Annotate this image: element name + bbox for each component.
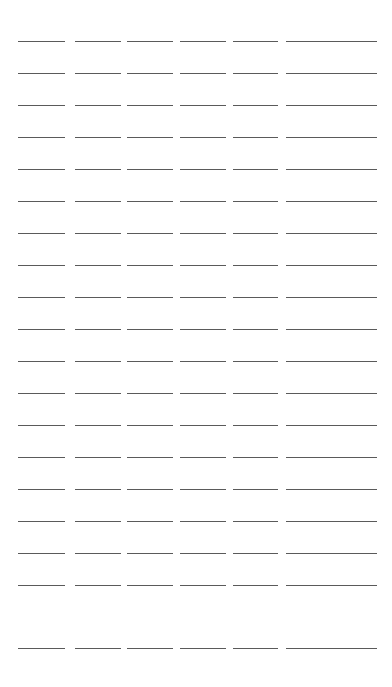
redacted-line [18,361,65,362]
redacted-line [180,521,226,522]
redacted-line-row [0,265,392,269]
redacted-line [330,73,377,74]
redacted-line-row [0,489,392,493]
redacted-line [75,489,121,490]
redacted-line [330,105,377,106]
redacted-line [18,41,65,42]
redacted-line [127,41,173,42]
redacted-line-row [0,73,392,77]
redacted-line [18,137,65,138]
redacted-line [75,393,121,394]
redacted-line-row [0,553,392,557]
redacted-line [286,105,331,106]
redacted-line [75,585,121,586]
redacted-line [330,41,377,42]
redacted-line [286,73,331,74]
redacted-line [18,393,65,394]
redacted-line [75,105,121,106]
redacted-line [127,73,173,74]
redacted-line [233,585,278,586]
redacted-line [180,553,226,554]
redacted-line [127,553,173,554]
document-page [0,0,392,687]
redacted-line-row [0,169,392,173]
redacted-line-row [0,41,392,45]
redacted-line [75,41,121,42]
redacted-line [233,393,278,394]
redacted-line [127,137,173,138]
redacted-line [18,521,65,522]
redacted-line [233,201,278,202]
redacted-line [18,233,65,234]
redacted-line [330,297,377,298]
redacted-line-row [0,297,392,301]
redacted-line [233,265,278,266]
redacted-line [75,201,121,202]
redacted-line [18,265,65,266]
redacted-line [330,585,377,586]
redacted-line [233,169,278,170]
redacted-line [18,585,65,586]
redacted-line [286,585,331,586]
redacted-line [286,169,331,170]
redacted-line [127,457,173,458]
redacted-line [330,521,377,522]
redacted-line [233,105,278,106]
redacted-line [127,361,173,362]
redacted-line [180,329,226,330]
redacted-line [286,489,331,490]
redacted-line [75,169,121,170]
redacted-line [127,489,173,490]
redacted-line [233,137,278,138]
redacted-line [18,73,65,74]
redacted-line [180,648,226,649]
redacted-line [18,553,65,554]
redacted-line [127,105,173,106]
redacted-line [180,233,226,234]
redacted-line [286,553,331,554]
redacted-line [180,137,226,138]
redacted-line [286,233,331,234]
redacted-line [75,457,121,458]
redacted-line-row [0,425,392,429]
redacted-line [18,329,65,330]
redacted-line [180,201,226,202]
redacted-line [233,648,278,649]
redacted-line [286,137,331,138]
redacted-line [127,393,173,394]
redacted-line [286,41,331,42]
redacted-line-row [0,585,392,589]
redacted-line [330,457,377,458]
redacted-line [75,233,121,234]
redacted-line [233,425,278,426]
redacted-line [233,73,278,74]
redacted-line [233,457,278,458]
redacted-line [127,585,173,586]
redacted-line [286,329,331,330]
redacted-line [286,201,331,202]
redacted-line [180,169,226,170]
redacted-line [330,553,377,554]
redacted-line [233,553,278,554]
redacted-line-row [0,457,392,461]
redacted-line [75,553,121,554]
redacted-line-row [0,648,392,652]
redacted-line [180,585,226,586]
redacted-line [127,648,173,649]
redacted-line [127,201,173,202]
redacted-line-row [0,393,392,397]
redacted-line [180,425,226,426]
redacted-line [233,41,278,42]
redacted-line [127,233,173,234]
redacted-line [233,297,278,298]
redacted-line [233,329,278,330]
redacted-line [330,393,377,394]
redacted-line [180,73,226,74]
redacted-line [180,41,226,42]
redacted-line [127,329,173,330]
redacted-line [286,425,331,426]
redacted-line [75,425,121,426]
redacted-line [75,648,121,649]
redacted-line [180,297,226,298]
redacted-line [330,169,377,170]
